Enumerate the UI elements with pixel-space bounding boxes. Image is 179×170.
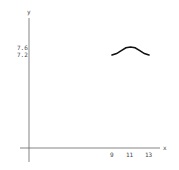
y-tick-label: 7.6 [17, 44, 28, 51]
x-tick-label: 9 [110, 151, 114, 158]
x-tick-label: 13 [145, 151, 153, 158]
y-tick-label: 7.2 [17, 51, 28, 58]
data-curve [112, 47, 149, 55]
x-tick-label: 11 [126, 151, 134, 158]
y-axis-label: y [27, 8, 31, 16]
chart: y x 7.6 7.2 9 11 13 [0, 0, 179, 170]
x-axis-label: x [163, 144, 167, 151]
